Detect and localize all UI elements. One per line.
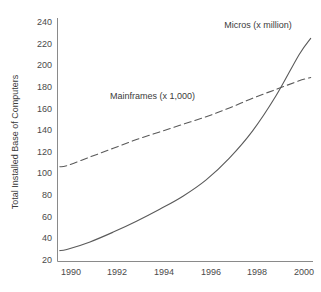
y-tick-label: 40 <box>42 233 52 243</box>
series-annotation-micros: Micros (x million) <box>224 20 292 30</box>
series-line-micros <box>60 38 311 250</box>
y-tick-label: 240 <box>37 17 52 27</box>
y-tick-label: 200 <box>37 60 52 70</box>
y-tick-label: 80 <box>42 190 52 200</box>
y-axis-tick-labels: 240 220 200 180 160 140 120 100 80 60 40… <box>37 17 52 265</box>
y-tick-label: 180 <box>37 82 52 92</box>
y-tick-label: 140 <box>37 125 52 135</box>
line-chart: Total Installed Base of Computers 240 22… <box>0 0 321 292</box>
y-tick-label: 100 <box>37 168 52 178</box>
x-tick-label: 1994 <box>154 267 174 277</box>
x-tick-label: 2000 <box>294 267 314 277</box>
x-tick-label: 1992 <box>107 267 127 277</box>
y-tick-label: 60 <box>42 212 52 222</box>
y-tick-label: 20 <box>42 255 52 265</box>
chart-container: Total Installed Base of Computers 240 22… <box>0 0 321 292</box>
x-axis-tick-labels: 1990 1992 1994 1996 1998 2000 <box>61 267 314 277</box>
x-tick-label: 1996 <box>201 267 221 277</box>
y-tick-label: 220 <box>37 39 52 49</box>
y-tick-label: 120 <box>37 147 52 157</box>
y-tick-label: 160 <box>37 104 52 114</box>
x-tick-label: 1990 <box>61 267 81 277</box>
x-tick-label: 1998 <box>247 267 267 277</box>
series-annotation-mainframes: Mainframes (x 1,000) <box>110 91 195 101</box>
y-axis-title: Total Installed Base of Computers <box>10 74 20 209</box>
